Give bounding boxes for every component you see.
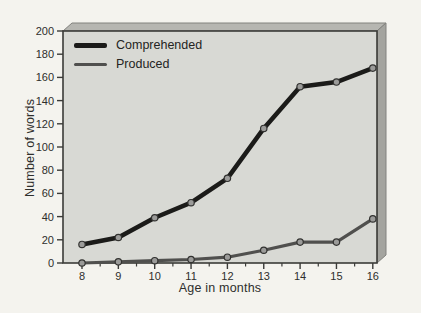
data-point-produced-11 bbox=[188, 256, 194, 262]
legend-line-swatch-comprehended bbox=[74, 43, 107, 48]
data-point-comprehended-8 bbox=[79, 241, 85, 247]
data-point-comprehended-14 bbox=[297, 83, 303, 89]
y-tick-label-60: 60 bbox=[42, 187, 54, 199]
legend-item-produced: Produced bbox=[74, 56, 202, 72]
slab-top-face bbox=[63, 23, 386, 31]
y-tick-label-200: 200 bbox=[36, 25, 54, 37]
slab-right-face bbox=[377, 23, 386, 263]
data-point-produced-15 bbox=[333, 239, 339, 245]
line-chart-canvas: 0204060801001201401601802008910111213141… bbox=[0, 0, 421, 313]
data-point-produced-16 bbox=[370, 216, 376, 222]
legend-label-produced: Produced bbox=[116, 57, 170, 71]
data-point-produced-14 bbox=[297, 239, 303, 245]
y-tick-label-40: 40 bbox=[42, 211, 54, 223]
legend-line-swatch-produced bbox=[74, 63, 107, 66]
y-tick-label-100: 100 bbox=[36, 141, 54, 153]
data-point-comprehended-12 bbox=[224, 175, 230, 181]
data-point-produced-9 bbox=[115, 259, 121, 265]
y-tick-label-80: 80 bbox=[42, 164, 54, 176]
data-point-comprehended-9 bbox=[115, 234, 121, 240]
legend: Comprehended Produced bbox=[74, 37, 202, 75]
data-point-comprehended-13 bbox=[261, 125, 267, 131]
y-axis-title: Number of words bbox=[23, 99, 37, 197]
x-axis-title: Age in months bbox=[63, 281, 377, 295]
data-point-produced-8 bbox=[79, 260, 85, 266]
chart-figure: 0204060801001201401601802008910111213141… bbox=[0, 0, 421, 313]
y-tick-label-0: 0 bbox=[48, 257, 54, 269]
data-point-produced-13 bbox=[261, 247, 267, 253]
y-tick-label-120: 120 bbox=[36, 118, 54, 130]
data-point-comprehended-10 bbox=[152, 215, 158, 221]
legend-label-comprehended: Comprehended bbox=[116, 38, 202, 52]
y-tick-label-20: 20 bbox=[42, 234, 54, 246]
y-tick-label-140: 140 bbox=[36, 95, 54, 107]
data-point-produced-12 bbox=[224, 254, 230, 260]
data-point-comprehended-11 bbox=[188, 199, 194, 205]
data-point-comprehended-16 bbox=[370, 65, 376, 71]
data-point-produced-10 bbox=[152, 257, 158, 263]
y-tick-label-160: 160 bbox=[36, 71, 54, 83]
data-point-comprehended-15 bbox=[333, 79, 339, 85]
legend-item-comprehended: Comprehended bbox=[74, 37, 202, 53]
y-tick-label-180: 180 bbox=[36, 48, 54, 60]
